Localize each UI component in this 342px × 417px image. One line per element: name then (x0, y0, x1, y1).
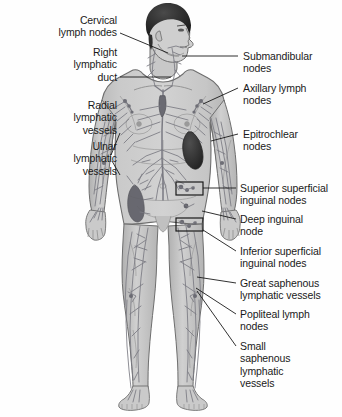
label-popliteal-lymph-nodes: Popliteal lymph nodes (240, 308, 341, 333)
label-submandibular-nodes: Submandibular nodes (243, 50, 341, 75)
label-small-saphenous-lymphatic-vessels: Small saphenous lymphatic vessels (240, 340, 341, 390)
right-leg (168, 224, 204, 388)
label-radial-lymphatic-vessels: Radial lymphatic vessels (8, 99, 117, 136)
label-deep-inguinal-node: Deep inguinal node (240, 213, 341, 238)
lymphatic-system-diagram: Cervical lymph nodes Right lymphatic duc… (0, 0, 342, 417)
leader-small-saphenous-lymphatic-vessels (197, 291, 236, 346)
label-right-lymphatic-duct: Right lymphatic duct (8, 46, 117, 83)
left-leg (122, 224, 158, 388)
label-epitrochlear-nodes: Epitrochlear nodes (243, 128, 341, 153)
eye (178, 28, 184, 31)
label-superior-superficial-inguinal-nodes: Superior superficial inguinal nodes (240, 182, 341, 207)
epitrochlear-node-right (220, 161, 224, 165)
label-inferior-superficial-inguinal-nodes: Inferior superficial inguinal nodes (240, 245, 341, 270)
label-axillary-lymph-nodes: Axillary lymph nodes (243, 82, 341, 107)
label-cervical-lymph-nodes: Cervical lymph nodes (8, 14, 117, 39)
label-great-saphenous-lymphatic-vessels: Great saphenous lymphatic vessels (240, 277, 341, 302)
label-ulnar-lymphatic-vessels: Ulnar lymphatic vessels (8, 140, 117, 177)
